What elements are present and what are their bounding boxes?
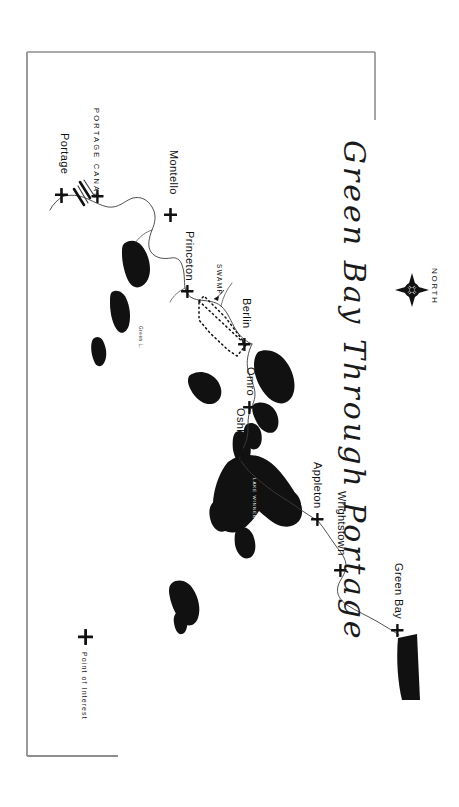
- feature-label-swamp: SWAMP: [216, 264, 223, 295]
- feature-label-green-lake: Green L.: [137, 326, 142, 349]
- map-title: Green Bay Through Portage: [337, 140, 372, 641]
- place-label-appleton: Appleton: [312, 462, 323, 509]
- place-label-omro: Omro: [245, 367, 256, 396]
- lake-puckaway: [110, 291, 130, 333]
- lake-green: [91, 337, 106, 366]
- marker-princeton: [181, 285, 194, 298]
- marker-appleton: [311, 513, 324, 526]
- lake-buffalo: [122, 241, 150, 288]
- feature-label-lake-winnebago: LAKE WINNEBAGO: [252, 478, 256, 532]
- bay-green-bay: [397, 634, 420, 700]
- marker-montello: [164, 208, 177, 222]
- compass-rose-icon: [395, 273, 429, 307]
- lake-winnebago-west-lobe: [209, 498, 231, 531]
- feature-label-portage-canal: PORTAGE CANAL: [93, 108, 101, 200]
- map-frame: [27, 52, 375, 756]
- lake-winnebago-south-tail: [235, 527, 256, 558]
- legend-label: Point of Interest: [81, 652, 88, 720]
- place-label-oshkosh: Oshkosh: [235, 408, 246, 454]
- place-label-portage: Portage: [59, 133, 70, 174]
- place-label-princeton: Princeton: [184, 231, 195, 281]
- place-label-wrightstown: Wrightstown: [336, 491, 347, 556]
- map-canvas: [0, 0, 459, 807]
- marker-green-bay: [391, 624, 404, 637]
- place-label-montello: Montello: [168, 150, 179, 195]
- place-label-green-bay: Green Bay: [393, 563, 404, 619]
- lake-poygan: [254, 350, 295, 403]
- place-label-berlin: Berlin: [241, 298, 252, 329]
- map-plate: Green Bay Through Portage NORTH Portage …: [0, 0, 459, 807]
- north-label: NORTH: [430, 268, 438, 304]
- lake-butte-des-morts: [188, 372, 221, 404]
- marker-legend-symbol: [78, 629, 93, 645]
